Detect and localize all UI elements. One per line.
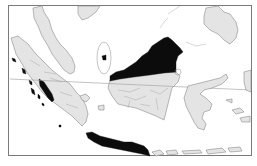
sulawesi	[184, 74, 228, 130]
java	[86, 132, 150, 156]
halmahera	[244, 70, 251, 92]
lesser-sunda-islands	[152, 147, 242, 156]
map	[0, 0, 257, 166]
maluku-islands	[226, 99, 250, 122]
philippines	[204, 6, 238, 44]
indochina-fragment	[78, 6, 100, 20]
natuna-island	[102, 55, 106, 60]
